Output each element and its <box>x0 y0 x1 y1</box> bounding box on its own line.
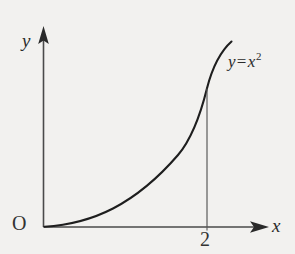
curve-equation-lhs: y <box>228 52 236 71</box>
y-axis-label: y <box>22 31 30 50</box>
figure-container: O y x 2 y=x2 <box>0 0 295 254</box>
x-axis-label: x <box>272 216 280 235</box>
x-tick-label-2: 2 <box>200 229 210 249</box>
graph-canvas <box>0 0 295 254</box>
parabola-curve <box>45 42 232 227</box>
origin-label: O <box>12 213 26 233</box>
curve-equation-exponent: 2 <box>256 50 262 62</box>
curve-equation-label: y=x2 <box>228 53 262 70</box>
curve-equation-equals: = <box>236 52 248 71</box>
curve-equation-base: x <box>248 52 256 71</box>
